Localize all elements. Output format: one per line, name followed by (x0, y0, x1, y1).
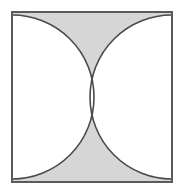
shaded-region (12, 12, 172, 182)
geometry-figure: Two tangent circles inscribed in a squar… (0, 0, 189, 196)
